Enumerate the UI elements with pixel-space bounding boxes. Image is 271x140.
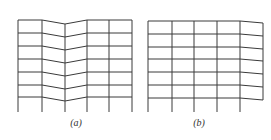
floor-beam: [42, 72, 65, 76]
floor-beam: [42, 59, 65, 63]
caption-a: (a): [70, 117, 82, 128]
floor-beam: [240, 59, 263, 61]
floor-beam: [42, 46, 65, 50]
floor-beam: [65, 97, 87, 101]
frame-grids-svg: [0, 0, 271, 140]
floor-beam: [42, 33, 65, 37]
floor-beam: [65, 46, 87, 50]
panel-a-grid: [18, 20, 132, 112]
floor-beam: [240, 34, 263, 36]
floor-beam: [240, 21, 263, 23]
floor-beam: [42, 97, 65, 101]
floor-beam: [65, 85, 87, 89]
floor-beam: [240, 85, 263, 87]
floor-beam: [65, 72, 87, 76]
floor-beam: [65, 33, 87, 37]
floor-beam: [65, 59, 87, 63]
floor-beam: [240, 98, 263, 100]
frame-diagram: (a) (b): [0, 0, 271, 140]
caption-b: (b): [193, 117, 205, 128]
floor-beam: [240, 47, 263, 49]
floor-beam: [42, 85, 65, 89]
floor-beam: [240, 72, 263, 74]
panel-b-grid: [148, 21, 263, 112]
floor-beam: [42, 20, 65, 24]
floor-beam: [65, 20, 87, 24]
